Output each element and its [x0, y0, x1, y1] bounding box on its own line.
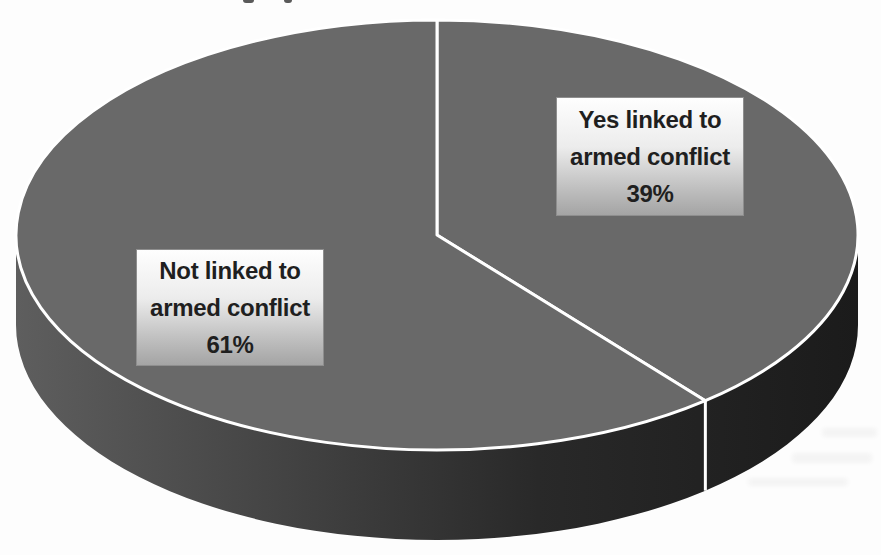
slice-label-line: Not linked to: [159, 252, 300, 289]
slice-label-not-linked: Not linked to armed conflict 61%: [137, 250, 323, 365]
scan-bleed-smudge: [748, 478, 848, 486]
slice-label-yes-linked: Yes linked to armed conflict 39%: [557, 98, 743, 215]
page-background: Yes linked to armed conflict 39% Not lin…: [0, 0, 881, 555]
pie-chart-3d: [0, 0, 881, 555]
scan-bleed-smudge: [822, 428, 877, 437]
scan-bleed-smudge: [792, 453, 872, 463]
slice-label-line: armed conflict: [570, 138, 730, 175]
slice-percent-value: 39%: [626, 175, 673, 212]
cropped-caption-fragment: [243, 0, 254, 3]
scanned-page: { "chart_data": { "type": "pie", "projec…: [0, 0, 881, 555]
slice-label-line: Yes linked to: [579, 101, 722, 138]
slice-label-line: armed conflict: [150, 289, 310, 326]
slice-percent-value: 61%: [206, 326, 253, 363]
